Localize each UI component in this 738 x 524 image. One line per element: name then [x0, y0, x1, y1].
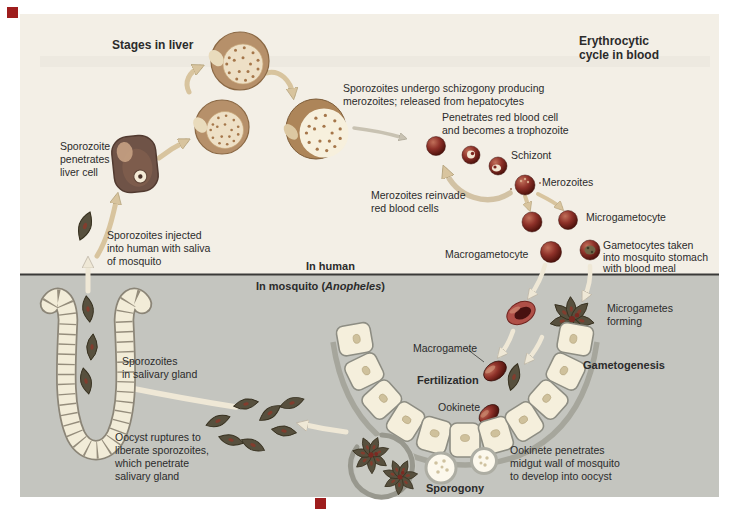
caption-gametocytes-taken-3: with blood meal — [602, 262, 676, 274]
life-cycle-diagram: Stages in liver Erythrocytic cycle in bl… — [0, 0, 738, 524]
caption-salivary-2: in salivary gland — [122, 368, 197, 380]
label-erythrocytic-1: Erythrocytic — [579, 34, 649, 48]
caption-oocyst-ruptures-3: which penetrate — [114, 457, 189, 469]
caption-microgametes-1: Microgametes — [607, 302, 673, 314]
developing-macrogametocyte — [522, 212, 542, 232]
caption-ookinete-penetrates-2: midgut wall of mosquito — [510, 457, 620, 469]
caption-reinvade-2: red blood cells — [371, 202, 439, 214]
label-gametogenesis: Gametogenesis — [583, 359, 665, 371]
caption-reinvade-1: Merozoites reinvade — [371, 189, 466, 201]
caption-penetrates-rbc-1: Penetrates red blood cell — [442, 111, 558, 123]
label-merozoites: Merozoites — [542, 176, 593, 188]
caption-oocyst-ruptures-2: liberate sporozoites, — [115, 444, 209, 456]
caption-salivary-1: Sporozoites — [122, 355, 177, 367]
schizont-cell — [489, 157, 507, 175]
label-in-mosquito: In mosquito (Anopheles) — [256, 280, 385, 292]
label-stages-in-liver: Stages in liver — [112, 38, 194, 52]
caption-ookinete-penetrates-3: to develop into oocyst — [510, 470, 612, 482]
label-erythrocytic-2: cycle in blood — [579, 48, 659, 62]
caption-injected-2: into human with saliva — [107, 242, 210, 254]
gametocyte-blood-meal-cell — [580, 240, 600, 260]
caption-gametocytes-taken-1: Gametocytes taken — [603, 239, 694, 251]
red-registration-mark-bottom — [315, 498, 326, 509]
trophozoite-ring-stage — [462, 146, 480, 164]
infected-red-blood-cell — [427, 137, 446, 156]
label-schizont: Schizont — [511, 149, 551, 161]
developing-oocyst-right — [472, 449, 497, 474]
caption-microgametes-2: forming — [607, 315, 642, 327]
caption-sporozoite-penetrates-2: penetrates — [60, 153, 110, 165]
developing-oocyst-left — [426, 453, 456, 483]
caption-injected-3: of mosquito — [107, 255, 161, 267]
microgametocyte-cell — [559, 211, 578, 230]
label-sporogony: Sporogony — [426, 482, 485, 494]
label-fertilization: Fertilization — [417, 374, 479, 386]
macrogametocyte-cell — [541, 242, 562, 263]
infected-liver-cell — [110, 134, 160, 194]
malaria-life-cycle-figure: Stages in liver Erythrocytic cycle in bl… — [0, 0, 738, 524]
label-macrogametocyte: Macrogametocyte — [445, 248, 529, 260]
red-registration-mark-top — [7, 7, 18, 18]
caption-schizogony-1: Sporozoites undergo schizogony producing — [343, 82, 545, 94]
caption-injected-1: Sporozoites injected — [107, 229, 202, 241]
caption-oocyst-ruptures-1: Oocyst ruptures to — [115, 431, 201, 443]
caption-schizogony-2: merozoites; released from hepatocytes — [343, 95, 524, 107]
label-in-human: In human — [306, 260, 355, 272]
label-ookinete: Ookinete — [438, 401, 480, 413]
label-macrogamete: Macrogamete — [413, 342, 477, 354]
caption-oocyst-ruptures-4: salivary gland — [115, 470, 179, 482]
caption-penetrates-rbc-2: and becomes a trophozoite — [442, 124, 569, 136]
caption-ookinete-penetrates-1: Ookinete penetrates — [510, 444, 605, 456]
caption-sporozoite-penetrates-3: liver cell — [60, 166, 98, 178]
label-microgametocyte: Microgametocyte — [586, 211, 666, 223]
caption-sporozoite-penetrates-1: Sporozoite — [60, 140, 110, 152]
